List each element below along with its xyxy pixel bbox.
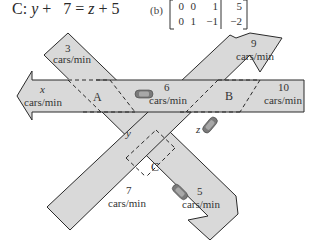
flow-sw-in-value: 7 <box>126 184 132 196</box>
flow-se-out-value: 5 <box>197 185 203 197</box>
flow-east-in-unit: cars/min <box>264 94 302 106</box>
flow-east-in-value: 10 <box>278 81 290 93</box>
flow-sw-in-unit: cars/min <box>108 197 146 209</box>
flow-se-out-unit: cars/min <box>182 198 220 210</box>
flow-a-b-value: 6 <box>164 81 170 93</box>
flow-west-out-unit: cars/min <box>24 96 62 108</box>
flow-ne-out-unit: cars/min <box>236 50 274 62</box>
intersection-label-a: A <box>93 90 102 104</box>
flow-west-out-value: x <box>39 83 45 95</box>
car-icon <box>201 116 219 135</box>
flow-b-c-value: z <box>195 123 201 135</box>
traffic-flow-diagram: A B C 3 cars/min 9 cars/min x cars/min 6… <box>0 0 318 240</box>
flow-nw-in-unit: cars/min <box>53 53 91 65</box>
flow-a-b-unit: cars/min <box>149 94 187 106</box>
flow-a-c-value: y <box>125 127 131 139</box>
flow-ne-out-value: 9 <box>251 37 257 49</box>
intersection-label-b: B <box>225 89 233 103</box>
intersection-label-c: C <box>151 160 159 174</box>
